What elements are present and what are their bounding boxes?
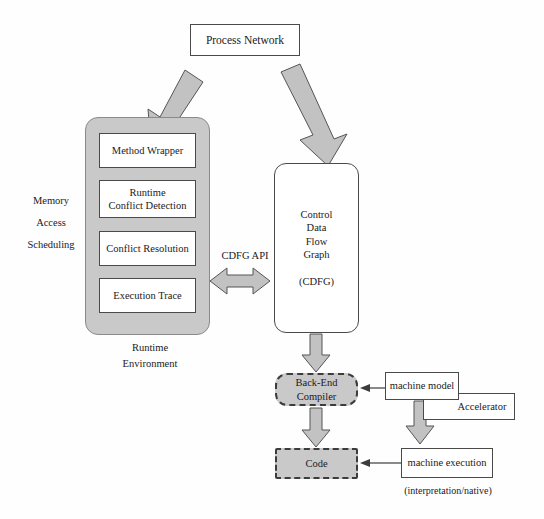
arrow-cdfg-api-bidirectional <box>210 268 270 294</box>
node-machine-execution-label: machine execution <box>407 456 486 469</box>
label-access-text: Access <box>16 215 86 231</box>
label-memory-text: Memory <box>16 193 86 209</box>
arrow-cdfg-to-backend <box>302 334 330 372</box>
node-method-wrapper-label: Method Wrapper <box>112 144 183 157</box>
arrow-backend-to-code <box>302 408 330 447</box>
node-code-label: Code <box>305 457 327 470</box>
node-execution-trace-label: Execution Trace <box>113 289 182 302</box>
node-code[interactable]: Code <box>275 448 358 479</box>
node-back-end-compiler-label-2: Compiler <box>297 390 337 403</box>
node-method-wrapper[interactable]: Method Wrapper <box>99 133 196 168</box>
label-cdfg-api-text: CDFG API <box>205 248 285 264</box>
node-process-network[interactable]: Process Network <box>190 24 300 56</box>
label-interpretation-native-text: (interpretation/native) <box>396 483 500 498</box>
diagram-canvas: Process Network Method Wrapper Runtime C… <box>0 0 544 519</box>
node-runtime-conflict-detection-label-1: Runtime <box>129 186 165 199</box>
label-scheduling: Scheduling <box>12 237 90 253</box>
node-runtime-conflict-detection[interactable]: Runtime Conflict Detection <box>99 180 196 218</box>
label-access: Access <box>16 215 86 231</box>
node-machine-execution[interactable]: machine execution <box>401 448 493 478</box>
label-runtime-caption-line-2: Environment <box>105 356 195 372</box>
node-machine-model-label: machine model <box>390 379 454 392</box>
node-cdfg-abbrev: (CDFG) <box>299 275 334 288</box>
node-cdfg-line-1: Control <box>300 208 332 221</box>
node-back-end-compiler[interactable]: Back-End Compiler <box>275 373 358 406</box>
arrow-machine-model-to-backend <box>360 384 385 392</box>
node-back-end-compiler-label-1: Back-End <box>296 376 338 389</box>
node-process-network-label: Process Network <box>206 33 284 48</box>
node-conflict-resolution-label: Conflict Resolution <box>106 242 189 255</box>
node-runtime-conflict-detection-label-2: Conflict Detection <box>109 199 187 212</box>
node-cdfg[interactable]: Control Data Flow Graph (CDFG) <box>274 163 359 333</box>
label-scheduling-text: Scheduling <box>12 237 90 253</box>
label-memory: Memory <box>16 193 86 209</box>
label-runtime-caption-line-1: Runtime <box>105 340 195 356</box>
node-accelerator-label: Accelerator <box>432 400 507 413</box>
node-cdfg-line-3: Flow <box>306 235 328 248</box>
arrow-process-to-cdfg <box>281 64 347 166</box>
arrow-machine-execution-to-code <box>360 459 401 467</box>
node-conflict-resolution[interactable]: Conflict Resolution <box>99 231 196 266</box>
node-machine-model[interactable]: machine model <box>385 372 459 400</box>
node-cdfg-line-2: Data <box>307 221 327 234</box>
label-cdfg-api: CDFG API <box>205 248 285 264</box>
node-execution-trace[interactable]: Execution Trace <box>99 278 196 313</box>
node-cdfg-line-4: Graph <box>303 248 329 261</box>
label-interpretation-native: (interpretation/native) <box>396 483 500 498</box>
label-runtime-environment-caption: Runtime Environment <box>105 340 195 372</box>
